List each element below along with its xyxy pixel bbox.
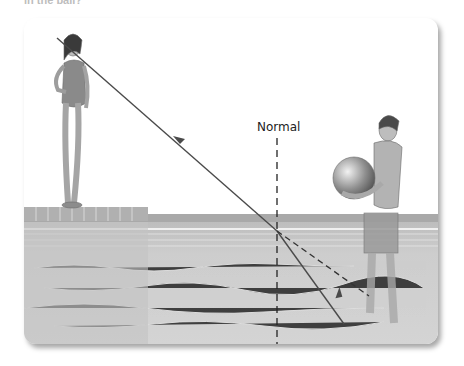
normal-label: Normal: [257, 120, 300, 134]
pool-deck: [24, 207, 148, 221]
top-caption: in the ball?: [24, 0, 82, 6]
refraction-illustration: [24, 18, 438, 344]
figure-frame: Normal: [24, 18, 438, 344]
ray-arrow-upper: [173, 136, 185, 144]
